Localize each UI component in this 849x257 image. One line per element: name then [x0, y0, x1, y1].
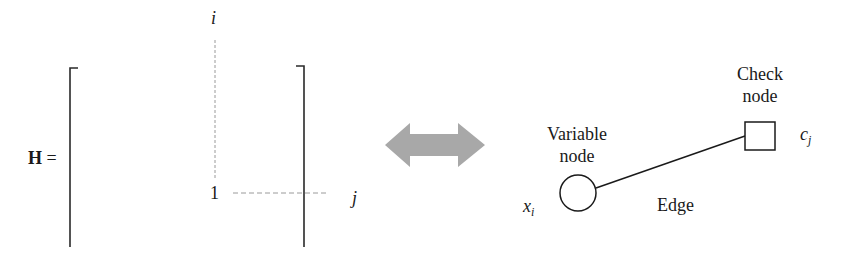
check-node-square: [745, 122, 775, 150]
matrix-entry-one: 1: [210, 183, 219, 203]
check-node-label-line2: node: [743, 86, 778, 106]
equals-sign: =: [47, 148, 57, 168]
matrix-left-bracket: [70, 68, 78, 247]
variable-node-label-line1: Variable: [547, 124, 607, 144]
variable-symbol-x: x: [523, 196, 531, 216]
matrix-name: H: [28, 148, 42, 168]
double-arrow-icon: [385, 123, 485, 167]
check-symbol-subscript: j: [808, 133, 811, 147]
matrix-right-bracket: [296, 66, 304, 247]
diagram-canvas: [0, 0, 849, 257]
row-index-label: i: [211, 8, 216, 28]
variable-symbol-subscript: i: [531, 205, 534, 219]
check-node-label-line1: Check: [737, 64, 783, 84]
check-node-symbol: cj: [800, 124, 811, 150]
edge-line: [596, 136, 745, 188]
variable-node-symbol: xi: [523, 196, 534, 222]
variable-node-label-line2: node: [560, 146, 595, 166]
edge-label: Edge: [657, 195, 694, 215]
col-index-label: j: [352, 188, 357, 208]
matrix-lhs: H =: [28, 148, 57, 168]
variable-node-circle: [560, 175, 596, 211]
check-symbol-c: c: [800, 124, 808, 144]
